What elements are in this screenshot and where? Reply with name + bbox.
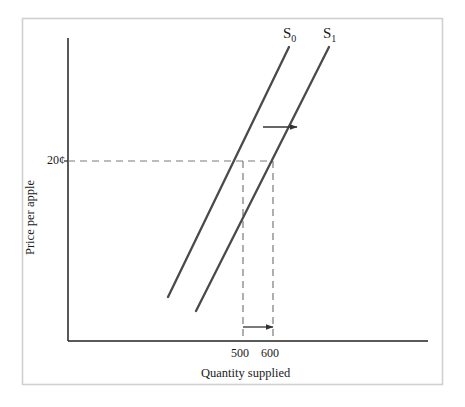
x-tick-label-600: 600 (261, 346, 279, 361)
x-axis-title: Quantity supplied (201, 366, 290, 381)
x-tick-label-500: 500 (231, 346, 249, 361)
figure-frame (23, 19, 443, 385)
y-tick-label-20: 20¢ (47, 153, 65, 168)
supply-curve-figure: S0 S1 20¢ 500 600 Quantity supplied Pric… (0, 0, 465, 407)
curve-label-s0-sub: 0 (291, 33, 296, 44)
curve-label-s0: S0 (283, 25, 296, 44)
y-axis-title: Price per apple (23, 180, 38, 255)
supply-curve-s1 (196, 47, 329, 311)
curve-label-s1-sub: 1 (331, 33, 336, 44)
supply-curve-s0 (168, 47, 289, 297)
curve-label-s1: S1 (323, 25, 336, 44)
